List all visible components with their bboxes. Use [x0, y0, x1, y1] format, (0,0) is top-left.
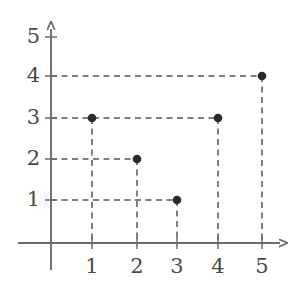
x-tick-label-2: 2 [125, 256, 149, 277]
scatter-plot-figure: 5 4 3 2 1 1 2 3 4 5 [0, 0, 299, 288]
y-tick-label-1: 1 [16, 189, 40, 210]
y-tick-label-5: 5 [16, 26, 40, 47]
x-tick-label-3: 3 [165, 256, 189, 277]
x-tick-label-1: 1 [80, 256, 104, 277]
axis-tick-marks [45, 37, 262, 249]
y-tick-label-4: 4 [16, 65, 40, 86]
data-point-4-3[interactable] [214, 114, 223, 123]
data-point-2-2[interactable] [133, 155, 142, 164]
x-tick-label-4: 4 [206, 256, 230, 277]
y-tick-label-3: 3 [16, 107, 40, 128]
x-tick-label-5: 5 [250, 256, 274, 277]
horizontal-leader-lines [51, 76, 262, 200]
data-point-5-4[interactable] [258, 72, 267, 81]
data-point-3-1[interactable] [173, 196, 182, 205]
data-point-1-3[interactable] [88, 114, 97, 123]
plot-canvas [0, 0, 299, 288]
y-tick-label-2: 2 [16, 148, 40, 169]
data-points [88, 72, 267, 205]
